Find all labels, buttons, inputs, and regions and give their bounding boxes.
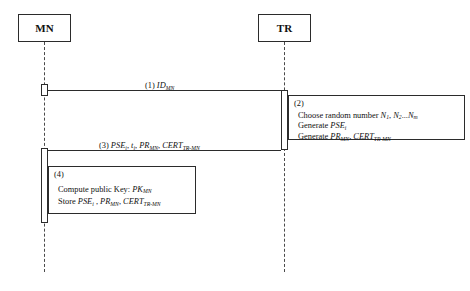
note-2-n3: N [408, 111, 414, 120]
participant-label-tr: TR [277, 23, 293, 34]
message-1-symbol: ID [157, 81, 166, 90]
note-2-cert-sub: TR-MN [374, 136, 391, 142]
note-4-line-1-prefix: Compute public Key: [58, 185, 132, 194]
note-2-pr: PR [330, 132, 340, 141]
note-2-line-1: Choose random number N1, N2...Nm [294, 111, 459, 122]
note-4-cert-sub: TR-MN [144, 201, 161, 207]
note-4-pse: PSE [78, 197, 92, 206]
note-2-n2: N [393, 111, 399, 120]
message-3-pr-sub: MN [149, 145, 158, 151]
note-4-pr: PR [100, 197, 110, 206]
message-1-number: (1) [145, 81, 155, 90]
participant-box-tr[interactable]: TR [258, 14, 311, 42]
note-4-line-2: Store PSEi , PRMN, CERTTR-MN [54, 195, 190, 208]
note-2-cert: CERT [353, 132, 373, 141]
note-2-line-2: Generate PSEi [294, 121, 459, 132]
message-3-pse: PSE [111, 141, 125, 150]
note-box-2[interactable]: (2) Choose random number N1, N2...Nm Gen… [288, 95, 465, 140]
message-3-pse-sub: i [125, 145, 127, 151]
note-box-4[interactable]: (4) Compute public Key: PKMN Store PSEi … [48, 166, 196, 214]
participant-label-mn: MN [35, 23, 54, 34]
lifeline-tr [284, 42, 285, 272]
message-3-number: (3) [99, 141, 109, 150]
activation-bar-mn-receive [41, 148, 48, 223]
note-4-line-1: Compute public Key: PKMN [54, 182, 190, 196]
note-2-line-1-prefix: Choose random number [298, 111, 381, 120]
message-3-cert: CERT [162, 141, 182, 150]
note-4-pk: PK [132, 185, 143, 194]
note-2-line-2-prefix: Generate [298, 121, 330, 130]
note-2-n3-sub: m [414, 114, 418, 120]
note-2-n2-sub: 2 [399, 114, 402, 120]
note-2-pse: PSE [330, 121, 344, 130]
note-4-pk-sub: MN [143, 188, 152, 194]
note-2-n1-sub: 1 [386, 114, 389, 120]
note-4-line-2-prefix: Store [58, 197, 78, 206]
message-label-3: (3) PSEi, ti, PRMN, CERTTR-MN [97, 142, 202, 150]
sequence-diagram-canvas: MN TR (1) IDMN (2) Choose random number … [0, 0, 470, 291]
note-2-line-3: Generate PRMN, CERTTR-MN [294, 132, 459, 143]
message-1-subscript: MN [166, 85, 175, 91]
note-4-tag: (4) [54, 170, 190, 181]
participant-box-mn[interactable]: MN [18, 14, 71, 42]
message-3-pr: PR [139, 141, 149, 150]
note-4-pse-sub: i [92, 201, 94, 207]
message-label-1: (1) IDMN [143, 82, 176, 90]
note-2-line-3-prefix: Generate [298, 132, 330, 141]
activation-bar-tr [281, 90, 288, 150]
note-2-pse-sub: i [345, 125, 347, 131]
message-3-cert-sub: TR-MN [183, 145, 200, 151]
note-4-pr-sub: MN [110, 201, 119, 207]
note-2-tag: (2) [294, 99, 459, 110]
note-4-cert: CERT [123, 197, 143, 206]
activation-bar-mn-send [41, 84, 48, 96]
message-3-t-sub: i [133, 145, 135, 151]
note-2-pr-sub: MN [341, 136, 350, 142]
